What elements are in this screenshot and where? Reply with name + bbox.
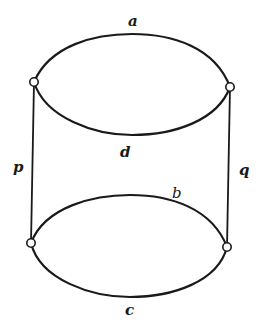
label-p: p	[13, 158, 24, 176]
label-c: c	[125, 301, 134, 319]
vertex-bottom-left	[27, 239, 35, 247]
edge-b	[31, 195, 227, 247]
edge-c	[31, 243, 227, 297]
vertex-bottom-right	[223, 243, 231, 251]
edge-q	[227, 87, 230, 247]
label-b: b	[172, 184, 182, 202]
cylinder-graph-diagram: a d b c p q	[0, 0, 260, 325]
edge-d	[34, 82, 230, 135]
vertex-top-left	[30, 78, 38, 86]
label-a: a	[128, 12, 138, 30]
edge-a	[34, 34, 230, 87]
label-d: d	[120, 143, 131, 161]
vertex-top-right	[226, 83, 234, 91]
edge-p	[31, 82, 34, 243]
label-q: q	[239, 161, 250, 179]
